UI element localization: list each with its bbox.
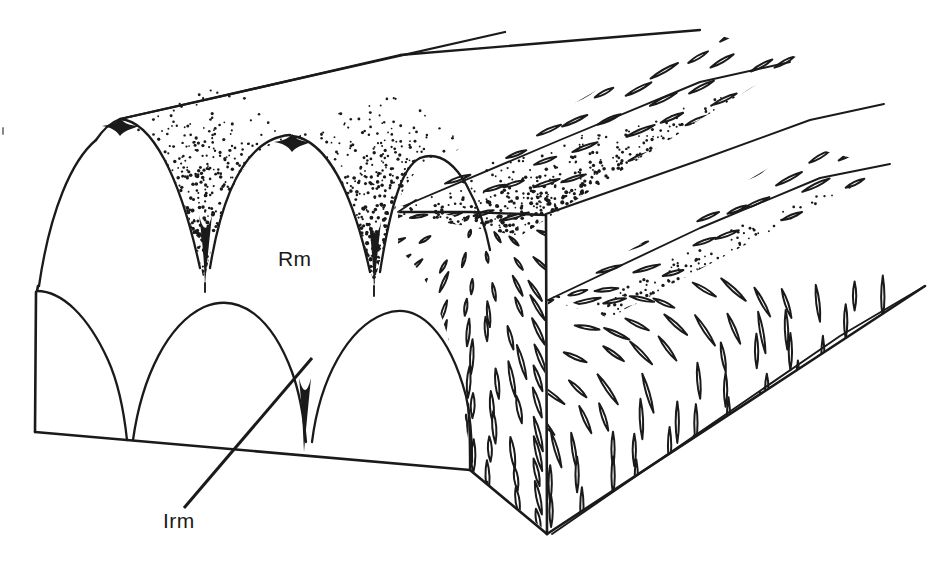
label-irm: Irm <box>163 509 195 532</box>
edge-upper-band-bottom <box>404 62 790 206</box>
arch-lower-2 <box>312 311 472 462</box>
block-outline <box>3 30 925 534</box>
label-rm: Rm <box>278 247 311 270</box>
stipple-texture <box>95 70 912 332</box>
dash-region-front-cut-face <box>381 207 553 547</box>
edge-front-face-right <box>546 215 547 534</box>
cusp-lower-1 <box>299 378 311 452</box>
edge-upper-band-top <box>120 30 700 119</box>
edge-left-vertical <box>35 292 36 432</box>
dash-region-right-cut-face <box>530 276 889 560</box>
edge-back-skyline <box>96 32 505 140</box>
edge-front-bottom <box>35 432 470 470</box>
edge-mid-band-top <box>546 104 884 214</box>
arch-upper-1 <box>120 119 200 268</box>
block-diagram-figure: Rm Irm <box>0 0 942 564</box>
stipple-region-lower-back-band <box>542 174 912 332</box>
irm-leader-line <box>184 358 312 508</box>
edge-face-corner-connector <box>398 200 416 212</box>
edge-front-face-bottom <box>470 470 547 534</box>
arch-upper-0 <box>39 140 96 286</box>
lenticular-dash-texture <box>381 18 897 560</box>
diagram-canvas: Rm Irm <box>0 0 942 564</box>
dash-region-upper-right-band <box>383 18 808 226</box>
edge-left-upper <box>37 286 38 291</box>
arch-lower-0 <box>37 291 127 440</box>
arch-lower-1 <box>133 303 306 442</box>
edge-front-face-left <box>468 404 470 470</box>
annotation-layer: Rm Irm <box>163 247 312 532</box>
